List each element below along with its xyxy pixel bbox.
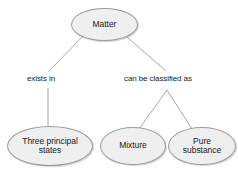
node-pure-substance[interactable]: Pure substance	[168, 127, 236, 165]
node-matter-label: Matter	[91, 20, 119, 30]
node-pure-substance-label: Pure substance	[181, 137, 223, 156]
edge-matter-to-three-upper	[50, 36, 83, 70]
edge-label-can-be-classified-as: can be classified as	[124, 74, 192, 83]
node-matter[interactable]: Matter	[71, 8, 138, 41]
node-mixture[interactable]: Mixture	[100, 127, 166, 165]
edge-label-exists-in-text: exists in	[27, 74, 55, 83]
node-mixture-label: Mixture	[117, 141, 149, 151]
node-three-principal-states-label: Three principal states	[20, 137, 79, 156]
edge-label-can-be-classified-as-text: can be classified as	[124, 74, 192, 83]
edge-label-exists-in: exists in	[27, 74, 55, 83]
concept-map-diagram: Matter exists in can be classified as Th…	[0, 0, 238, 170]
node-three-principal-states[interactable]: Three principal states	[7, 126, 93, 166]
edge-classified-to-pure	[167, 90, 192, 129]
edge-classified-to-mixture	[139, 90, 167, 129]
edge-matter-to-classified	[127, 37, 166, 71]
